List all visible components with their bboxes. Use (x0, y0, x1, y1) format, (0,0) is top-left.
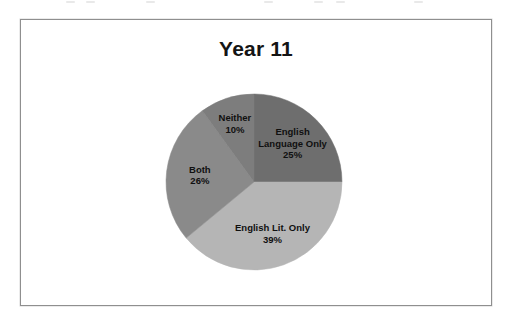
pie-slice-label-line: Language Only (258, 138, 327, 149)
pie-slice-label-line: 25% (283, 149, 303, 160)
pie-slice-label-line: English Lit. Only (235, 222, 311, 233)
pie-slice-label-line: 39% (263, 234, 283, 245)
pie-slice-label-line: Both (189, 164, 211, 175)
pie-slice-label-line: 26% (190, 175, 210, 186)
pie-slice-label: Both26% (189, 164, 211, 187)
pie-slice-label-line: English (275, 126, 310, 137)
pie-slice-label-line: Neither (219, 112, 252, 123)
scan-artifacts (0, 0, 513, 8)
chart-frame: Year 11 EnglishLanguage Only25%English L… (20, 19, 492, 306)
pie-slice-label-line: 10% (225, 124, 245, 135)
pie-chart: EnglishLanguage Only25%English Lit. Only… (21, 20, 493, 307)
